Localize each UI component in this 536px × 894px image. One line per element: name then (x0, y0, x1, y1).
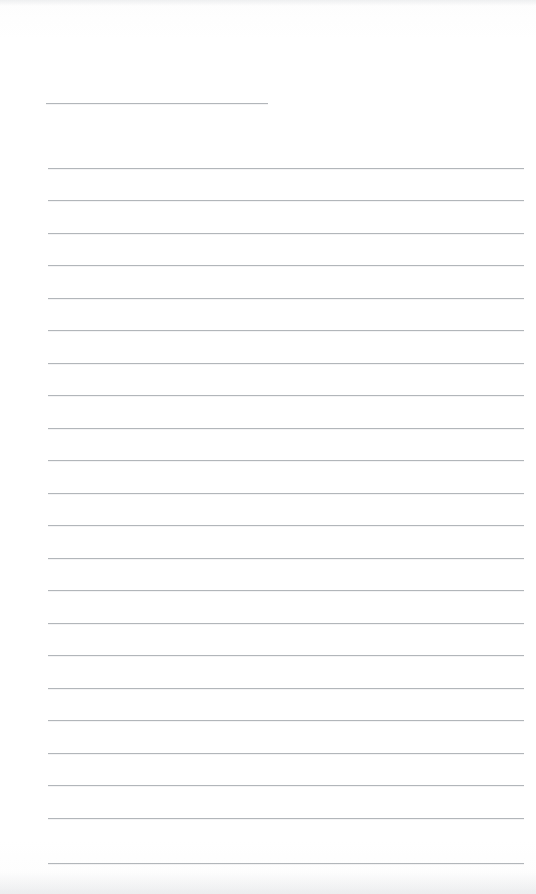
ruled-line (48, 720, 524, 721)
ruled-line (48, 863, 524, 864)
ruled-line (48, 688, 524, 689)
ruled-line (48, 818, 524, 819)
ruled-line (48, 655, 524, 656)
ruled-line (48, 168, 524, 169)
ruled-line (48, 493, 524, 494)
ruled-line (48, 298, 524, 299)
ruled-line (48, 558, 524, 559)
ruled-line (48, 265, 524, 266)
ruled-line (48, 785, 524, 786)
ruled-line (48, 428, 524, 429)
ruled-line (48, 200, 524, 201)
ruled-line (48, 395, 524, 396)
ruled-line (48, 363, 524, 364)
ruled-line (48, 753, 524, 754)
ruled-line (48, 233, 524, 234)
ruled-line (48, 623, 524, 624)
ruled-line (48, 330, 524, 331)
header-underline-rule (46, 103, 268, 104)
ruled-line (48, 525, 524, 526)
ruled-line (48, 460, 524, 461)
ruled-line (48, 590, 524, 591)
paper-surface (0, 0, 536, 894)
notepad-page (0, 0, 536, 894)
